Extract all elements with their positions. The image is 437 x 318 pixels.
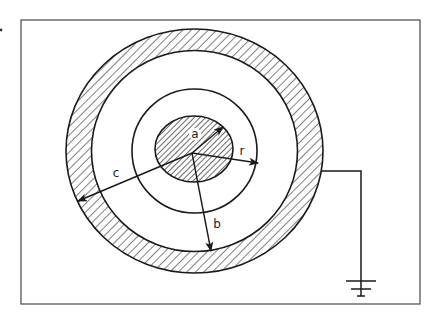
coax-diagram: a r b c: [0, 0, 437, 318]
label-c: c: [113, 166, 120, 180]
ground-wire: [321, 171, 361, 289]
label-a: a: [191, 127, 198, 141]
inner-conductor: [155, 116, 233, 182]
label-b: b: [213, 217, 221, 231]
margin-dot: [0, 29, 2, 32]
ground-connection: [321, 171, 376, 296]
label-r: r: [240, 144, 245, 158]
